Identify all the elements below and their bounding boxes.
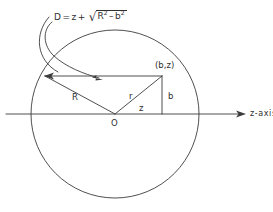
radical-sign-icon: √ xyxy=(89,11,97,23)
diagram-svg xyxy=(0,0,273,212)
formula-radicand: R2–b2 xyxy=(96,10,126,21)
formula-equals: = xyxy=(62,13,70,22)
formula-term-z: z xyxy=(71,13,76,22)
label-z-axis: z-axis xyxy=(250,110,273,118)
formula-leader-curve xyxy=(45,22,99,78)
label-b: b xyxy=(168,92,173,101)
radicand-R-exponent: 2 xyxy=(104,9,108,16)
figure-canvas: D=z+√R2–b2 (b,z) R r b z O z-axis xyxy=(0,0,273,212)
label-r: r xyxy=(129,92,133,101)
formula-lhs: D xyxy=(54,13,61,22)
formula-plus: + xyxy=(78,13,86,22)
formula-radical: √R2–b2 xyxy=(88,10,127,22)
radicand-b-exponent: 2 xyxy=(121,9,125,16)
radius-R-line xyxy=(45,76,115,114)
label-origin-O: O xyxy=(111,119,118,128)
label-R: R xyxy=(72,93,78,102)
formula-expression: D=z+√R2–b2 xyxy=(54,10,127,22)
point-label-bz: (b,z) xyxy=(155,61,174,70)
label-z: z xyxy=(139,104,143,113)
radicand-minus: – xyxy=(109,11,114,21)
